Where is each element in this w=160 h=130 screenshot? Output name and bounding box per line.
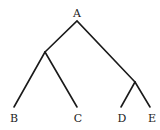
- node-label-b: B: [10, 112, 18, 125]
- node-label-a: A: [72, 7, 82, 20]
- edge-n2-e: [135, 82, 150, 107]
- tree-diagram: A B C D E: [0, 0, 160, 130]
- edges: [14, 21, 150, 107]
- edge-n1-b: [14, 52, 45, 107]
- edge-a: [45, 21, 135, 82]
- node-label-e: E: [148, 112, 156, 125]
- node-label-c: C: [74, 112, 82, 125]
- edge-n1-c: [45, 52, 77, 107]
- edge-n2-d: [121, 82, 135, 107]
- node-label-d: D: [118, 112, 127, 125]
